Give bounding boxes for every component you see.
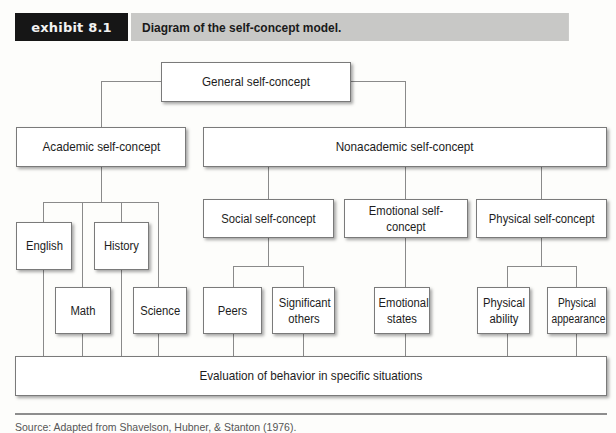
connector	[541, 167, 542, 199]
node-label: Emotional self-concept	[351, 203, 461, 235]
node-label: Physical ability	[481, 295, 526, 327]
node-academic-self-concept: Academic self-concept	[16, 127, 186, 167]
node-label: Academic self-concept	[42, 139, 160, 155]
node-physical-appearance: Physical appearance	[547, 287, 607, 334]
node-label: Physical self-concept	[489, 211, 595, 227]
node-label: General self-concept	[202, 74, 310, 90]
connector	[233, 266, 304, 267]
node-peers: Peers	[203, 287, 262, 334]
connector	[507, 266, 577, 267]
node-label: Emotional states	[379, 295, 426, 327]
node-history: History	[94, 222, 149, 270]
connector	[158, 334, 159, 356]
node-label: English	[26, 238, 63, 254]
node-label: Math	[70, 303, 95, 319]
node-label: Physical appearance	[552, 295, 603, 327]
node-label: Evaluation of behavior in specific situa…	[199, 368, 422, 384]
node-emotional-states: Emotional states	[374, 287, 430, 334]
node-label: Significant others	[278, 295, 328, 327]
node-evaluation-of-behavior: Evaluation of behavior in specific situa…	[15, 356, 607, 396]
node-physical-self-concept: Physical self-concept	[476, 199, 607, 238]
connector	[303, 334, 304, 356]
node-label: Peers	[218, 303, 247, 319]
node-nonacademic-self-concept: Nonacademic self-concept	[203, 127, 607, 167]
connector	[405, 238, 406, 287]
node-emotional-self-concept: Emotional self-concept	[344, 199, 468, 238]
divider	[15, 413, 607, 415]
connector	[121, 270, 122, 356]
connector	[43, 202, 159, 203]
connector	[541, 238, 542, 266]
source-note: Source: Adapted from Shavelson, Hubner, …	[15, 421, 296, 433]
connector	[303, 266, 304, 287]
node-label: Nonacademic self-concept	[336, 139, 474, 155]
connector	[101, 81, 102, 127]
connector	[43, 202, 44, 222]
connector	[233, 334, 234, 356]
connector	[43, 270, 44, 356]
node-physical-ability: Physical ability	[477, 287, 530, 334]
connector	[233, 266, 234, 287]
connector	[405, 334, 406, 356]
node-science: Science	[133, 287, 187, 334]
connector	[268, 167, 269, 199]
node-math: Math	[55, 287, 111, 334]
connector	[507, 266, 508, 287]
connector	[82, 202, 83, 287]
connector	[121, 202, 122, 222]
connector	[82, 334, 83, 356]
connector	[158, 202, 159, 287]
exhibit-label: exhibit 8.1	[15, 13, 128, 41]
connector	[576, 266, 577, 287]
connector	[268, 238, 269, 266]
connector	[507, 334, 508, 356]
node-social-self-concept: Social self-concept	[203, 199, 334, 238]
connector	[101, 167, 102, 202]
connector	[101, 81, 161, 82]
node-english: English	[16, 222, 72, 270]
node-label: Science	[140, 303, 180, 319]
node-label: Social self-concept	[221, 211, 315, 227]
connector	[405, 81, 406, 127]
node-label: History	[104, 238, 139, 254]
connector	[351, 81, 405, 82]
connector	[576, 334, 577, 356]
node-general-self-concept: General self-concept	[161, 62, 351, 102]
node-significant-others: Significant others	[272, 287, 335, 334]
exhibit-title: Diagram of the self-concept model.	[131, 13, 569, 41]
connector	[405, 167, 406, 199]
